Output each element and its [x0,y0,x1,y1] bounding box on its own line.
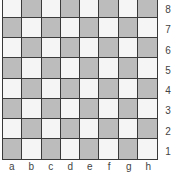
square-h3[interactable] [138,99,157,119]
file-label-h: h [139,160,159,174]
square-e8[interactable] [80,0,99,18]
square-b7[interactable] [22,18,41,38]
rank-label-4: 4 [162,81,174,101]
square-a2[interactable] [3,119,22,139]
square-b1[interactable] [22,139,41,159]
square-a1[interactable] [3,139,22,159]
file-label-g: g [119,160,139,174]
square-c2[interactable] [42,119,61,139]
square-f3[interactable] [99,99,118,119]
square-b6[interactable] [22,38,41,58]
square-d1[interactable] [61,139,80,159]
square-b4[interactable] [22,79,41,99]
square-d2[interactable] [61,119,80,139]
square-e6[interactable] [80,38,99,58]
square-g2[interactable] [119,119,138,139]
square-d8[interactable] [61,0,80,18]
square-e1[interactable] [80,139,99,159]
rank-label-6: 6 [162,41,174,61]
square-h5[interactable] [138,58,157,78]
square-f7[interactable] [99,18,118,38]
square-h7[interactable] [138,18,157,38]
square-h6[interactable] [138,38,157,58]
file-label-b: b [22,160,42,174]
square-g8[interactable] [119,0,138,18]
square-c8[interactable] [42,0,61,18]
square-e2[interactable] [80,119,99,139]
square-b8[interactable] [22,0,41,18]
square-f4[interactable] [99,79,118,99]
file-label-c: c [41,160,61,174]
square-g5[interactable] [119,58,138,78]
square-c6[interactable] [42,38,61,58]
square-g3[interactable] [119,99,138,119]
square-f1[interactable] [99,139,118,159]
square-g1[interactable] [119,139,138,159]
square-c4[interactable] [42,79,61,99]
square-h1[interactable] [138,139,157,159]
square-g4[interactable] [119,79,138,99]
square-g6[interactable] [119,38,138,58]
square-g7[interactable] [119,18,138,38]
file-label-e: e [80,160,100,174]
square-d6[interactable] [61,38,80,58]
square-d7[interactable] [61,18,80,38]
chessboard [2,0,158,160]
square-c3[interactable] [42,99,61,119]
square-a3[interactable] [3,99,22,119]
rank-label-2: 2 [162,122,174,142]
square-f5[interactable] [99,58,118,78]
square-a5[interactable] [3,58,22,78]
square-b3[interactable] [22,99,41,119]
square-e7[interactable] [80,18,99,38]
square-e5[interactable] [80,58,99,78]
rank-label-8: 8 [162,0,174,20]
rank-label-3: 3 [162,101,174,121]
square-a8[interactable] [3,0,22,18]
square-e4[interactable] [80,79,99,99]
square-c1[interactable] [42,139,61,159]
square-a7[interactable] [3,18,22,38]
square-c5[interactable] [42,58,61,78]
square-f6[interactable] [99,38,118,58]
square-c7[interactable] [42,18,61,38]
file-label-a: a [2,160,22,174]
square-d3[interactable] [61,99,80,119]
square-h2[interactable] [138,119,157,139]
square-f8[interactable] [99,0,118,18]
square-h8[interactable] [138,0,157,18]
rank-label-1: 1 [162,142,174,162]
square-d4[interactable] [61,79,80,99]
square-d5[interactable] [61,58,80,78]
square-a4[interactable] [3,79,22,99]
file-label-d: d [61,160,81,174]
square-e3[interactable] [80,99,99,119]
square-b2[interactable] [22,119,41,139]
file-label-f: f [100,160,120,174]
square-f2[interactable] [99,119,118,139]
rank-label-7: 7 [162,20,174,40]
rank-label-5: 5 [162,61,174,81]
square-a6[interactable] [3,38,22,58]
square-h4[interactable] [138,79,157,99]
square-b5[interactable] [22,58,41,78]
